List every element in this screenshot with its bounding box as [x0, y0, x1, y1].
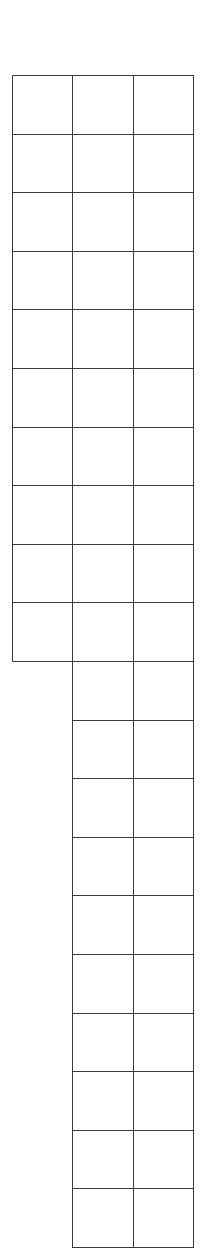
grid-cell [72, 720, 134, 779]
grid-cell [72, 837, 134, 896]
grid-cell [72, 75, 134, 135]
grid-cell [133, 427, 194, 486]
grid-cell [12, 544, 73, 603]
grid-cell [12, 309, 73, 369]
grid-cell [12, 134, 73, 193]
grid-cell [72, 1071, 134, 1131]
grid-cell [133, 309, 194, 369]
grid-cell [72, 661, 134, 721]
grid-cell [133, 1130, 194, 1189]
grid-cell [12, 602, 73, 662]
grid-cell [72, 427, 134, 486]
grid-cell [72, 778, 134, 838]
grid-cell [133, 778, 194, 838]
grid-cell [72, 544, 134, 603]
grid-cell [12, 485, 73, 545]
grid-cell [12, 427, 73, 486]
grid-cell [12, 192, 73, 252]
grid-cell [12, 251, 73, 310]
grid-cell [133, 720, 194, 779]
grid-cell [12, 75, 73, 135]
grid-cell [133, 895, 194, 955]
grid-cell [72, 954, 134, 1014]
grid-cell [133, 602, 194, 662]
grid-cell [133, 1188, 194, 1248]
grid-cell [72, 134, 134, 193]
grid-cell [72, 895, 134, 955]
grid-cell [72, 368, 134, 428]
grid-cell [133, 75, 194, 135]
grid-cell [72, 192, 134, 252]
grid-cell [133, 251, 194, 310]
grid-cell [133, 544, 194, 603]
grid-cell [72, 602, 134, 662]
grid-cell [133, 954, 194, 1014]
grid-cell [72, 251, 134, 310]
grid-cell [12, 368, 73, 428]
grid-cell [72, 1188, 134, 1248]
grid-cell [133, 134, 194, 193]
grid-cell [133, 192, 194, 252]
grid-cell [133, 485, 194, 545]
grid-cell [72, 309, 134, 369]
grid-cell [72, 485, 134, 545]
grid-cell [72, 1130, 134, 1189]
grid-cell [133, 1071, 194, 1131]
grid-cell [133, 837, 194, 896]
grid-cell [133, 368, 194, 428]
grid-cell [133, 1013, 194, 1072]
grid-cell [72, 1013, 134, 1072]
grid-cell [133, 661, 194, 721]
